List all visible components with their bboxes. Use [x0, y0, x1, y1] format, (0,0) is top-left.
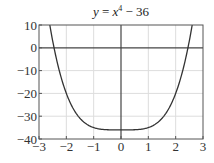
y-tick-label: −20 [17, 86, 37, 101]
y-tick-label: 0 [31, 40, 38, 55]
x-tick-label: 0 [118, 139, 125, 154]
y-tick-label: −40 [17, 132, 37, 147]
x-tick-labels: −3−2−10123 [32, 139, 206, 154]
y-tick-label: 10 [24, 18, 37, 33]
chart-title: y = x4 − 36 [91, 4, 150, 19]
y-tick-label: −10 [17, 63, 37, 78]
x-tick-label: 3 [200, 139, 207, 154]
x-tick-label: −1 [87, 139, 101, 154]
axes [39, 25, 203, 139]
title-rest: − 36 [122, 4, 149, 19]
title-eq: = [99, 4, 113, 19]
x-tick-label: 1 [145, 139, 152, 154]
x-tick-label: 2 [172, 139, 179, 154]
x-tick-label: −2 [59, 139, 73, 154]
y-tick-labels: 100−10−20−30−40 [17, 18, 37, 147]
y-tick-label: −30 [17, 109, 37, 124]
chart: y = x4 − 36 −3−2−10123 100−10−20−30−40 [0, 0, 214, 163]
